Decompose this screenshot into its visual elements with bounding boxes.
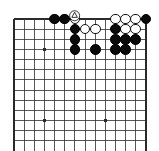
- white-stone: [90, 24, 101, 35]
- go-board-diagram: [0, 0, 159, 151]
- white-stone: [110, 14, 121, 25]
- black-stone: [70, 34, 81, 45]
- black-stone: [130, 34, 141, 45]
- black-stone: [120, 34, 131, 45]
- black-stone: [70, 44, 81, 55]
- white-stone: [120, 14, 131, 25]
- star-point: [43, 48, 46, 51]
- star-point: [43, 119, 46, 122]
- black-stone: [120, 44, 131, 55]
- black-stone: [90, 44, 101, 55]
- black-stone: [110, 34, 121, 45]
- star-point: [104, 119, 107, 122]
- black-stone: [110, 44, 121, 55]
- black-stone: [49, 14, 60, 25]
